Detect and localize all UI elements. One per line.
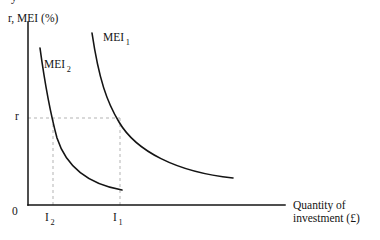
curve-label-mei1-base: MEI bbox=[103, 31, 124, 43]
curve-label-mei1-subscript: 1 bbox=[124, 38, 130, 47]
x-axis-title-line2: investment (£) bbox=[293, 212, 360, 225]
curve-label-mei2-subscript: 2 bbox=[65, 65, 71, 74]
y-tick-label-r: r bbox=[15, 110, 19, 123]
x-axis-title-line1: Quantity of bbox=[293, 199, 346, 211]
curve-label-mei2-base: MEI bbox=[44, 58, 65, 70]
x-axis-title: Quantity ofinvestment (£) bbox=[293, 199, 360, 225]
clipped-text-artifact: y bbox=[11, 0, 17, 4]
curve-mei1 bbox=[92, 33, 233, 178]
mei-investment-diagram: y r, MEI (%) r 0 I2 I1 MEI2 MEI1 Quantit… bbox=[0, 0, 380, 240]
x-tick-i2-subscript: 2 bbox=[49, 218, 55, 227]
origin-label: 0 bbox=[12, 205, 18, 218]
x-tick-label-i2: I2 bbox=[45, 211, 55, 224]
y-axis-title: r, MEI (%) bbox=[8, 12, 58, 25]
curve-label-mei1: MEI1 bbox=[103, 31, 130, 44]
curve-label-mei2: MEI2 bbox=[44, 58, 71, 71]
x-tick-i1-subscript: 1 bbox=[117, 218, 123, 227]
x-tick-label-i1: I1 bbox=[113, 211, 123, 224]
